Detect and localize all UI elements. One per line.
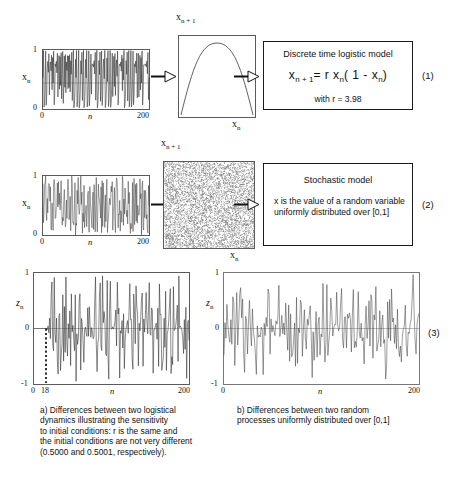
xlabel-row3-left: n xyxy=(110,387,114,396)
ytick-1-row1: 1 xyxy=(33,46,37,54)
ylabel-row2: xn xyxy=(22,198,31,212)
xlabel-row2: n xyxy=(88,238,92,247)
xtick-18-row3-left: 18 xyxy=(41,387,49,395)
caption-b: b) Differences between two random proces… xyxy=(237,405,447,426)
model-box-logistic: Discrete time logistic model xn + 1= r x… xyxy=(263,41,413,110)
xtick-200-row1: 200 xyxy=(137,112,149,120)
ylabel-map-row1: xn + 1 xyxy=(176,12,195,26)
xtick-0-row3-left: 0 xyxy=(31,387,35,395)
xtick-200-row3-left: 200 xyxy=(178,387,190,395)
model-box-logistic-title: Discrete time logistic model xyxy=(264,49,412,60)
caption-a: a) Differences between two logistical dy… xyxy=(40,405,230,457)
chart-logistic-timeseries xyxy=(42,49,150,110)
model-box-stochastic-title: Stochastic model xyxy=(264,175,412,186)
xlabel-map-row1: xn xyxy=(232,119,241,133)
ytick-0-row2: 0 xyxy=(33,230,37,238)
arrow-icon-row2-right xyxy=(234,198,260,211)
model-box-logistic-formula: xn + 1= r xn( 1 - xn) xyxy=(264,68,412,87)
equation-number-3: (3) xyxy=(428,327,440,338)
ytick-0-row1: 0 xyxy=(33,104,37,112)
model-box-stochastic: Stochastic model x is the value of a ran… xyxy=(263,163,413,246)
chart-logistic-difference xyxy=(33,272,190,385)
figure-root: 1 0 xn 0 200 n xn + 1 xn Discrete time l… xyxy=(0,0,457,478)
xlabel-map-row1-sub: n xyxy=(237,124,241,132)
xtick-0-row1: 0 xyxy=(40,112,44,120)
xlabel-map-row2: xn xyxy=(230,250,239,264)
formula-close: ) xyxy=(383,68,388,82)
xtick-200-row2: 200 xyxy=(137,238,149,246)
random-difference-svg xyxy=(224,273,419,384)
ylabel-row3-left: zn xyxy=(16,298,23,312)
xtick-0-row3-right: 0 xyxy=(221,387,225,395)
ylabel-row3-right-sub: n xyxy=(210,303,214,311)
xlabel-map-row2-sub: n xyxy=(235,255,239,263)
model-box-stochastic-body: x is the value of a random variable unif… xyxy=(274,196,406,218)
formula-tail: ( 1 - x xyxy=(344,68,378,82)
ytick-1-row3-left: 1 xyxy=(25,269,29,277)
logistic-difference-svg xyxy=(34,273,189,384)
ylabel-row1: xn xyxy=(22,72,31,86)
ylabel-row1-sub: n xyxy=(27,77,31,85)
ylabel-row2-sub: n xyxy=(27,203,31,211)
ylabel-map-row2-sub: n + 1 xyxy=(166,143,180,151)
ytick-1-row2: 1 xyxy=(33,172,37,180)
ytick-0-row3-left: 0 xyxy=(25,324,29,332)
ytick-neg1-row3-left: -1 xyxy=(21,380,28,388)
xtick-0-row2: 0 xyxy=(40,238,44,246)
ytick-neg1-row3-right: -1 xyxy=(211,380,218,388)
xtick-200-row3-right: 200 xyxy=(408,387,420,395)
ylabel-row3-left-sub: n xyxy=(20,303,24,311)
chart-random-difference xyxy=(223,272,420,385)
xlabel-row1: n xyxy=(88,112,92,121)
arrow-icon-row1-right xyxy=(234,70,260,83)
xlabel-row3-right: n xyxy=(318,387,322,396)
logistic-timeseries-svg xyxy=(43,50,149,109)
equation-number-1: (1) xyxy=(422,70,434,81)
model-box-logistic-note: with r = 3.98 xyxy=(264,94,412,104)
ylabel-map-row2: xn + 1 xyxy=(161,138,180,152)
arrow-icon-row1-left xyxy=(151,70,177,83)
equation-number-2: (2) xyxy=(422,199,434,210)
random-timeseries-svg xyxy=(43,176,149,235)
formula-lhs-sub: n + 1 xyxy=(295,75,313,84)
ytick-1-row3-right: 1 xyxy=(215,269,219,277)
chart-random-timeseries xyxy=(42,175,150,236)
ylabel-row3-right: zn xyxy=(206,298,213,312)
ylabel-map-row1-sub: n + 1 xyxy=(181,17,195,25)
ytick-0-row3-right: 0 xyxy=(215,324,219,332)
formula-rest: = r x xyxy=(313,68,339,82)
